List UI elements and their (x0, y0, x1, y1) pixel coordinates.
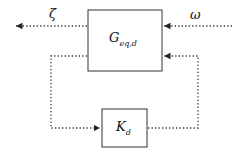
plant-label-sub: eq,d (119, 39, 137, 48)
controller-block-label: Kd (116, 119, 131, 137)
plant-block-label: Geq,d (109, 30, 137, 48)
output-signal-label: ζ (49, 6, 56, 21)
controller-label-sub: d (126, 128, 131, 137)
input-signal-label: ω (190, 7, 201, 22)
controller-label-main: K (116, 119, 126, 134)
plant-label-main: G (109, 30, 119, 45)
